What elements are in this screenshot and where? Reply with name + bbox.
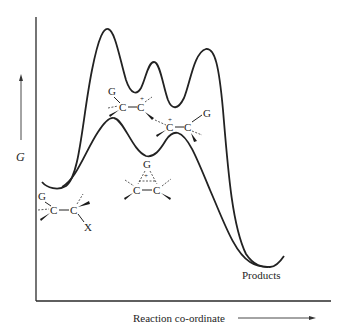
dashed-bond (192, 131, 202, 135)
wedge-bond (78, 201, 90, 207)
bond (78, 214, 84, 222)
bridged-atom-c2: C (153, 184, 160, 196)
dashed-bond (77, 194, 83, 204)
bridged-charge: + (144, 172, 148, 180)
bridged-ion-structure: G + C C (124, 158, 171, 200)
cation1-atom-g: G (108, 85, 116, 97)
bridged-atom-g: G (143, 158, 151, 170)
reactant-structure: G C C X (38, 190, 92, 233)
reactant-atom-c2: C (70, 204, 77, 216)
cation2-atom-g: G (203, 107, 211, 119)
wedge-bond (40, 213, 50, 221)
energy-profile-diagram: G G C C X G C C + C C G + (0, 0, 347, 336)
dashed-bond (162, 179, 171, 186)
bond (114, 97, 120, 103)
wedge-bond (145, 112, 154, 120)
y-axis-label-group: G (16, 74, 25, 164)
products-label: Products (242, 269, 281, 281)
reactant-atom-x: X (84, 221, 92, 233)
x-axis-label-group: Reaction co-ordinate (133, 312, 316, 324)
cation2-charge: + (168, 116, 172, 124)
cation1-charge: + (140, 95, 144, 103)
wedge-bond (156, 130, 166, 137)
upper-energy-curve (42, 29, 284, 267)
up-arrow-icon (19, 74, 23, 81)
dashed-bond (145, 97, 152, 102)
dashed-bond (38, 209, 49, 210)
dashed-bond (155, 120, 166, 125)
wedge-bond (191, 133, 197, 142)
bridge-dashed-bond (150, 171, 157, 184)
lower-energy-curve (62, 118, 268, 267)
wedge-bond (124, 193, 133, 200)
right-arrow-icon (309, 316, 316, 320)
y-axis-label: G (16, 150, 25, 164)
reactant-atom-g: G (38, 190, 46, 202)
cation2-atom-c2: C (184, 121, 191, 133)
wedge-bond (161, 193, 171, 200)
x-axis-label: Reaction co-ordinate (133, 312, 225, 324)
bond (192, 115, 202, 122)
wedge-bond (109, 110, 119, 117)
dashed-bond (108, 106, 118, 108)
axes (36, 17, 331, 301)
